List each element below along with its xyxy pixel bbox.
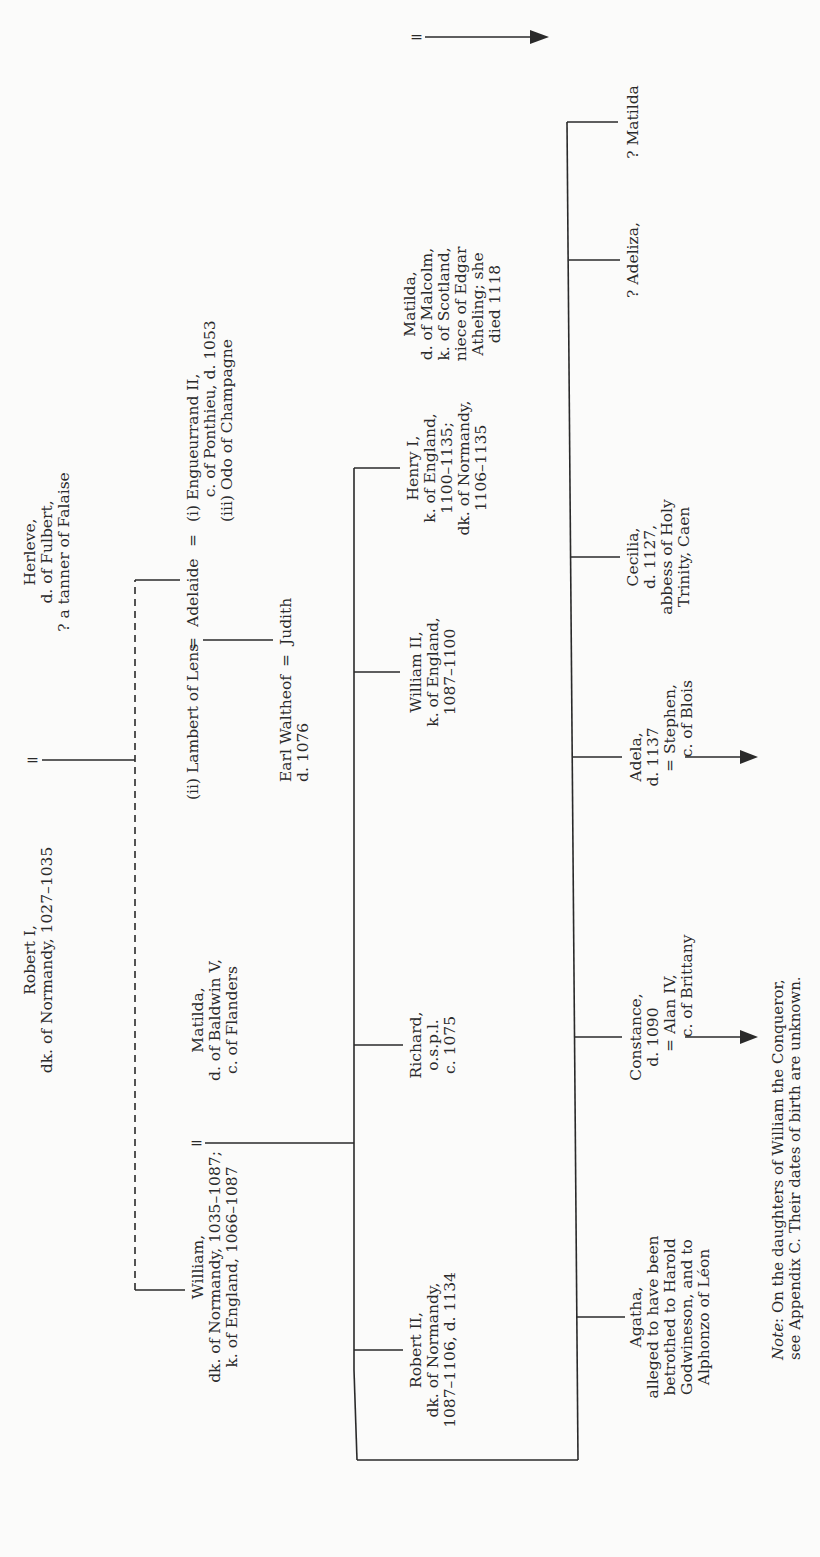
person-judith: Judith — [278, 598, 295, 645]
eq-adelaide-husbands: = — [185, 534, 202, 547]
person-adeliza: ? Adeliza, — [625, 222, 642, 298]
marriage-symbol-henry: = — [410, 29, 423, 46]
person-stephen: = Stephen, c. of Blois — [662, 680, 696, 772]
eq-lambert-adelaide: = — [185, 637, 202, 650]
person-robert-i: Robert I, dk. of Normandy, 1027–1035 — [22, 847, 56, 1074]
person-constance: Constance, d. 1090 — [628, 993, 662, 1080]
arrow-head-henry-icon — [530, 30, 549, 44]
note-label: Note — [769, 1323, 787, 1360]
person-herleve: Herleve, d. of Fulbert, ? a tanner of Fa… — [22, 472, 73, 632]
note-text: : On the daughters of William the Conque… — [769, 976, 804, 1360]
person-waltheof: Earl Waltheof d. 1076 — [278, 675, 312, 782]
eq-waltheof-judith: = — [278, 654, 295, 667]
person-henry-i: Henry I, k. of England, 1100–1135; dk. o… — [405, 401, 490, 536]
person-adelaide: Adelaide — [185, 558, 202, 627]
connector-top — [354, 1370, 357, 1460]
person-cecilia: Cecilia, d. 1127, abbess of Holy Trinity… — [625, 499, 693, 615]
person-adela: Adela, d. 1137 — [628, 727, 662, 786]
person-william-ii: William II, k. of England, 1087–1100 — [408, 617, 459, 727]
person-richard: Richard, o.s.p.l. c. 1075 — [408, 1012, 459, 1079]
marriage-symbol: = — [26, 752, 39, 769]
person-matilda-scotland: Matilda, d. of Malcolm, k. of Scotland, … — [402, 247, 504, 362]
arrow-head-adela-icon — [740, 750, 758, 764]
daughters-bracket — [567, 122, 578, 1460]
person-william: William, dk. of Normandy, 1035–1087; k. … — [190, 1151, 241, 1383]
person-adelaide-husbands: (i) Engueurrand II, c. of Ponthieu, d. 1… — [185, 320, 236, 522]
person-lambert: (ii) Lambert of Lens — [185, 644, 202, 800]
person-alan-iv: = Alan IV, c. of Brittany — [662, 934, 696, 1052]
arrow-head-constance-icon — [740, 1030, 758, 1044]
footnote: Note: On the daughters of William the Co… — [770, 976, 804, 1360]
person-robert-ii: Robert II, dk. of Normandy, 1087–1106, d… — [408, 1272, 459, 1428]
person-matilda-flanders: Matilda, d. of Baldwin V, c. of Flanders — [190, 959, 241, 1081]
person-agatha: Agatha, alleged to have been betrothed t… — [628, 1235, 713, 1398]
genealogy-tree: Robert I, dk. of Normandy, 1027–1035 = H… — [0, 0, 820, 1557]
person-matilda-daughter: ? Matilda — [625, 85, 642, 159]
marriage-symbol-william: = — [190, 1135, 203, 1152]
